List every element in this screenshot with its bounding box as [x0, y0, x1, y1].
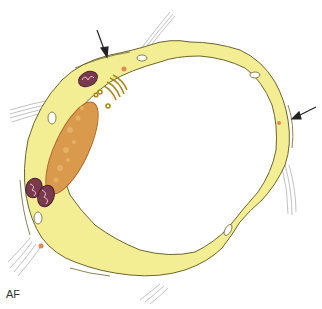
capillary-diagram: AF [0, 0, 322, 309]
diagram-svg [0, 0, 322, 309]
figure-label: AF [6, 288, 20, 300]
